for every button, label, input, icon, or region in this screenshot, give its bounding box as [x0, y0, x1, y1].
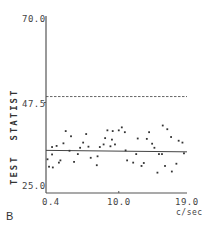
data-point: [178, 140, 180, 142]
data-point: [151, 143, 153, 145]
data-point: [164, 165, 166, 167]
data-point: [97, 155, 99, 157]
y-tick-bottom: 25.0: [22, 181, 46, 191]
data-point: [56, 145, 58, 147]
data-point: [85, 133, 87, 135]
x-axis-label: c/sec: [176, 208, 203, 217]
data-point: [141, 165, 143, 167]
data-point: [77, 153, 79, 155]
data-point: [118, 129, 120, 131]
data-point: [96, 164, 98, 166]
data-point: [51, 154, 53, 156]
data-point: [110, 145, 112, 147]
data-point: [51, 146, 53, 148]
panel-label: B: [6, 210, 13, 222]
data-point: [52, 167, 54, 169]
data-point: [148, 131, 150, 133]
data-point: [183, 152, 185, 154]
data-point: [157, 172, 159, 174]
data-point: [47, 158, 49, 160]
data-point: [126, 159, 128, 161]
data-point: [88, 146, 90, 148]
data-point: [99, 146, 101, 148]
data-point: [111, 139, 113, 141]
y-tick-top: 70.0: [22, 14, 46, 24]
data-point: [125, 149, 127, 151]
data-point: [82, 142, 84, 144]
data-point: [107, 129, 109, 131]
data-point: [166, 128, 168, 130]
data-point: [143, 162, 145, 164]
data-point: [104, 137, 106, 139]
data-point: [112, 130, 114, 132]
x-tick-right: 19.0: [175, 197, 199, 207]
data-point: [170, 136, 172, 138]
data-point: [154, 147, 156, 149]
y-tick-mid: 47.5: [22, 99, 46, 109]
data-point: [73, 161, 75, 163]
data-point: [48, 166, 50, 168]
x-tick-mid: 10.0: [107, 197, 131, 207]
data-point: [158, 153, 160, 155]
data-point: [69, 150, 71, 152]
data-point: [146, 138, 148, 140]
data-point: [60, 159, 62, 161]
data-point: [114, 144, 116, 146]
y-axis-label: TEST STATIST: [9, 105, 19, 185]
data-point: [162, 125, 164, 127]
data-point: [175, 163, 177, 165]
x-tick-left: 0.4: [42, 197, 60, 207]
data-point: [132, 162, 134, 164]
data-point: [103, 144, 105, 146]
data-point: [182, 142, 184, 144]
data-point: [171, 171, 173, 173]
data-point: [90, 157, 92, 159]
data-point: [65, 130, 67, 132]
data-point: [124, 131, 126, 133]
data-point: [70, 135, 72, 137]
data-point: [79, 147, 81, 149]
solid-trend-line: [46, 150, 187, 151]
data-point: [63, 142, 65, 144]
data-point: [161, 153, 163, 155]
data-point: [121, 126, 123, 128]
data-point: [137, 138, 139, 140]
data-point: [58, 162, 60, 164]
data-point: [135, 153, 137, 155]
